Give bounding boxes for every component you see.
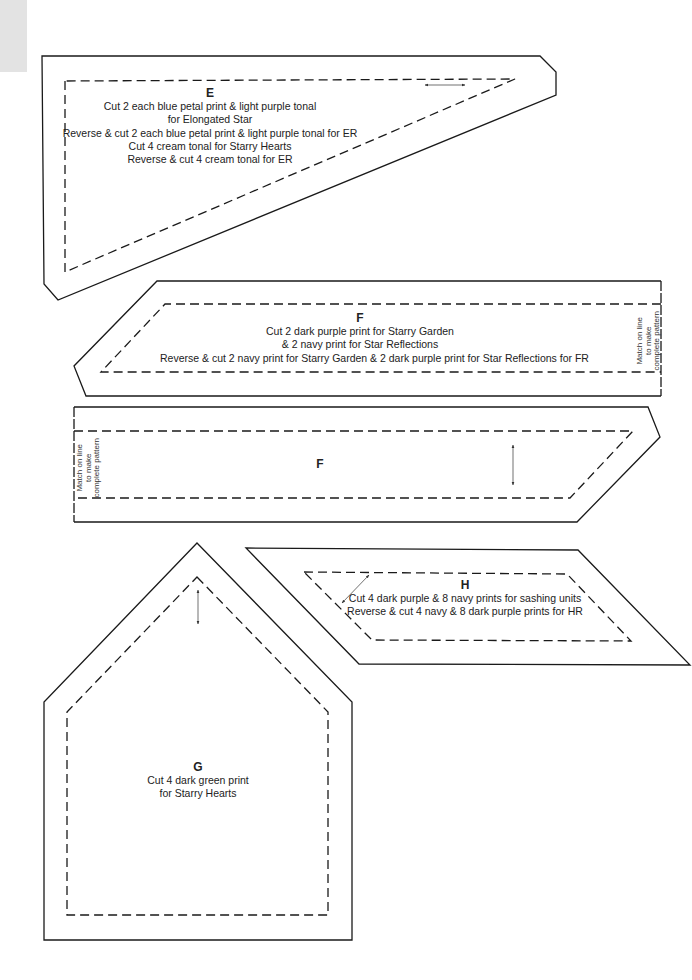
cutting-instruction: Cut 2 dark purple print for Starry Garde… bbox=[160, 325, 560, 338]
cutting-instruction: & 2 navy print for Star Reflections bbox=[160, 338, 560, 351]
cutting-instruction: for Starry Hearts bbox=[98, 787, 298, 800]
cutting-instruction: Cut 4 cream tonal for Starry Hearts bbox=[60, 140, 360, 153]
cutting-instruction: Reverse & cut 2 each blue petal print & … bbox=[60, 127, 360, 140]
piece-f-bottom-cut-line bbox=[74, 407, 660, 522]
cutting-instruction: Reverse & cut 4 cream tonal for ER bbox=[60, 153, 360, 166]
match-note-line: complete pattern bbox=[93, 433, 102, 503]
piece-letter: E bbox=[60, 86, 360, 100]
piece-f-bottom-label: F bbox=[305, 457, 335, 471]
piece-letter: G bbox=[98, 760, 298, 774]
match-line-note: Match on line to make complete pattern bbox=[76, 433, 102, 503]
match-line-note: Match on line to make complete pattern bbox=[636, 306, 662, 376]
cutting-instruction: Reverse & cut 2 navy print for Starry Ga… bbox=[160, 352, 560, 365]
piece-f-bottom-seam-line bbox=[74, 431, 633, 498]
piece-e-label: E Cut 2 each blue petal print & light pu… bbox=[60, 86, 360, 166]
piece-letter: H bbox=[330, 578, 600, 592]
piece-h-label: H Cut 4 dark purple & 8 navy prints for … bbox=[330, 578, 600, 619]
cutting-instruction: for Elongated Star bbox=[60, 113, 360, 126]
piece-letter: F bbox=[160, 311, 560, 325]
cutting-instruction: Reverse & cut 4 navy & 8 dark purple pri… bbox=[330, 605, 600, 618]
piece-g-seam-line bbox=[67, 577, 328, 915]
cutting-instruction: Cut 4 dark green print bbox=[98, 774, 298, 787]
piece-f-top-label: F Cut 2 dark purple print for Starry Gar… bbox=[160, 311, 560, 365]
cutting-instruction: Cut 4 dark purple & 8 navy prints for sa… bbox=[330, 592, 600, 605]
piece-g-label: G Cut 4 dark green print for Starry Hear… bbox=[98, 760, 298, 801]
cutting-instruction: Cut 2 each blue petal print & light purp… bbox=[60, 100, 360, 113]
piece-letter: F bbox=[305, 457, 335, 471]
match-note-line: complete pattern bbox=[653, 306, 662, 376]
